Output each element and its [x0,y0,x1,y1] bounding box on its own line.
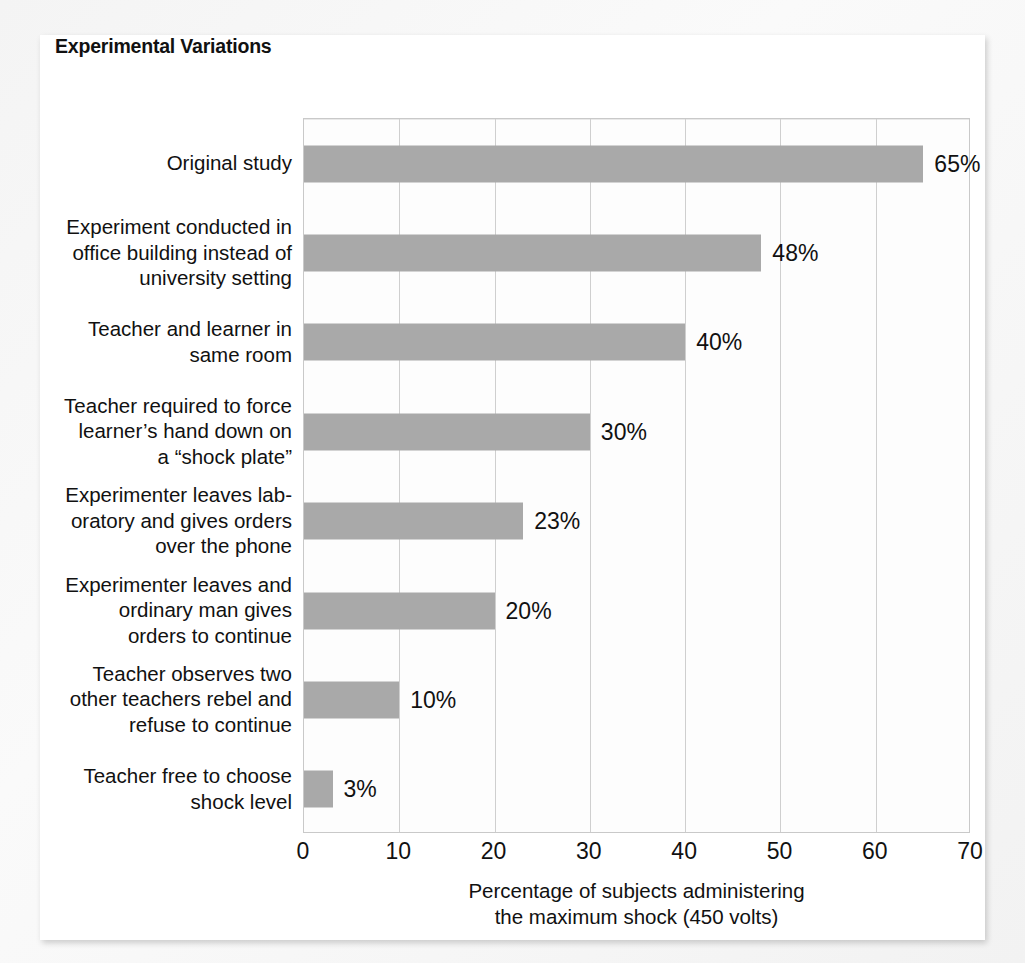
bar-value-label: 3% [344,776,377,803]
category-label-line: oratory and gives orders [2,507,292,533]
category-label-line: university setting [2,265,292,291]
x-tick-label: 30 [576,838,602,865]
x-axis-title-line: the maximum shock (450 volts) [303,904,970,930]
bar-row: 65% [304,119,969,208]
x-tick-label: 0 [297,838,310,865]
bar-row: 40% [304,298,969,387]
bar-value-label: 48% [772,240,818,267]
bar-row: 30% [304,387,969,476]
bar-row: 10% [304,655,969,744]
chart-page: Experimental Variations Original studyEx… [0,0,1025,963]
category-label-line: learner’s hand down on [2,418,292,444]
category-label-line: Teacher required to force [2,393,292,419]
x-tick-label: 40 [671,838,697,865]
bar-value-label: 65% [934,150,980,177]
x-axis-tick-labels: 010203040506070 [303,838,970,872]
bar-row: 3% [304,745,969,834]
category-label-line: ordinary man gives [2,597,292,623]
category-label: Teacher required to forcelearner’s hand … [2,393,292,470]
bar [304,503,523,540]
category-label-line: office building instead of [2,239,292,265]
x-axis-title: Percentage of subjects administeringthe … [303,878,970,930]
bar-value-label: 23% [534,508,580,535]
category-label-line: Original study [2,150,292,176]
bar-value-label: 30% [601,418,647,445]
category-label-line: other teachers rebel and [2,686,292,712]
bar [304,413,590,450]
x-tick-label: 60 [862,838,888,865]
category-label: Teacher free to chooseshock level [2,763,292,814]
bar [304,592,495,629]
bar [304,681,399,718]
category-label: Experimenter leaves andordinary man give… [2,571,292,648]
x-axis-title-line: Percentage of subjects administering [303,878,970,904]
category-label-line: Teacher observes two [2,661,292,687]
category-label: Experiment conducted inoffice building i… [2,214,292,291]
category-label-line: Experimenter leaves lab- [2,482,292,508]
category-label-line: orders to continue [2,622,292,648]
category-label-line: refuse to continue [2,712,292,738]
category-label-line: shock level [2,788,292,814]
x-tick-label: 10 [385,838,411,865]
bar [304,771,333,808]
category-axis-labels: Original studyExperiment conducted inoff… [0,118,292,833]
bar-value-label: 10% [410,686,456,713]
x-tick-label: 50 [767,838,793,865]
bar-value-label: 20% [506,597,552,624]
plot-area: 65%48%40%30%23%20%10%3% [303,118,970,833]
bar [304,145,923,182]
category-label: Experimenter leaves lab-oratory and give… [2,482,292,559]
category-label-line: Teacher and learner in [2,316,292,342]
category-label-line: a “shock plate” [2,444,292,470]
bar [304,324,685,361]
bar-row: 23% [304,477,969,566]
bar-row: 48% [304,208,969,297]
category-label: Teacher observes twoother teachers rebel… [2,661,292,738]
bar-value-label: 40% [696,329,742,356]
category-label: Original study [2,150,292,176]
category-label-line: Experiment conducted in [2,214,292,240]
page-title: Experimental Variations [55,35,272,58]
category-label-line: same room [2,341,292,367]
category-label-line: Teacher free to choose [2,763,292,789]
category-label-line: Experimenter leaves and [2,571,292,597]
category-label: Teacher and learner insame room [2,316,292,367]
x-tick-label: 70 [957,838,983,865]
bar-row: 20% [304,566,969,655]
category-label-line: over the phone [2,533,292,559]
bar [304,235,761,272]
x-tick-label: 20 [481,838,507,865]
